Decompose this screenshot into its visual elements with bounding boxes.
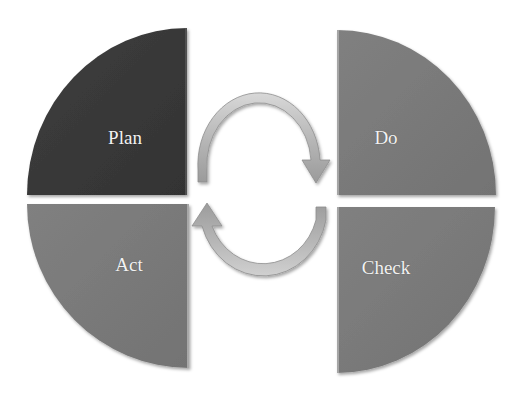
lower-cycle-arrow-icon: [192, 203, 326, 276]
do-label: Do: [374, 127, 397, 149]
plan-label: Plan: [108, 127, 142, 149]
plan-quadrant: [27, 28, 187, 195]
pdca-diagram: [0, 0, 516, 402]
do-quadrant: [337, 30, 496, 195]
act-quadrant: [27, 204, 189, 368]
check-label: Check: [362, 257, 411, 279]
act-label: Act: [115, 254, 142, 276]
upper-cycle-arrow-icon: [198, 93, 330, 183]
check-quadrant: [337, 207, 495, 373]
